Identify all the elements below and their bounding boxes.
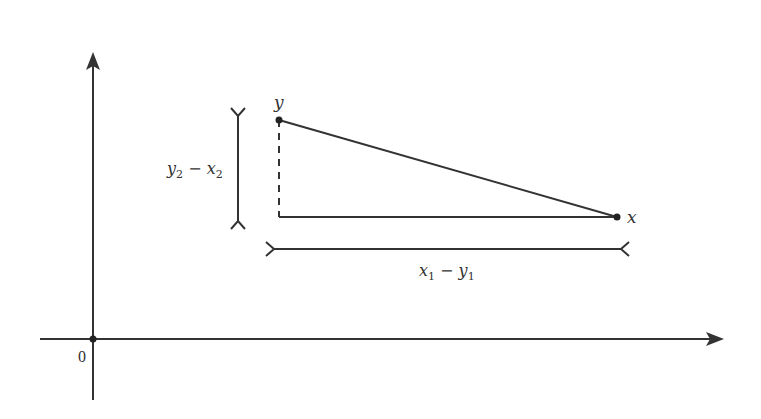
dimension-top-tick-icon bbox=[231, 108, 245, 116]
vertical-measure-label: y2 − x2 bbox=[166, 159, 223, 181]
origin-label: 0 bbox=[78, 348, 86, 365]
point-x-label: x bbox=[627, 207, 637, 227]
dimension-right-tick-icon bbox=[621, 242, 629, 256]
distance-diagram: 0 y x y2 − x2 x1 − y1 bbox=[0, 0, 761, 419]
point-y bbox=[276, 117, 283, 124]
vertical-dimension: y2 − x2 bbox=[166, 108, 245, 229]
axes: 0 bbox=[40, 52, 724, 400]
origin-point bbox=[90, 336, 97, 343]
hypotenuse bbox=[279, 120, 617, 217]
horizontal-dimension: x1 − y1 bbox=[266, 242, 629, 283]
point-y-label: y bbox=[273, 92, 284, 112]
dimension-left-tick-icon bbox=[266, 242, 274, 256]
dimension-bottom-tick-icon bbox=[231, 221, 245, 229]
point-x bbox=[614, 214, 621, 221]
horizontal-measure-label: x1 − y1 bbox=[419, 261, 475, 283]
right-triangle: y x bbox=[273, 92, 637, 227]
